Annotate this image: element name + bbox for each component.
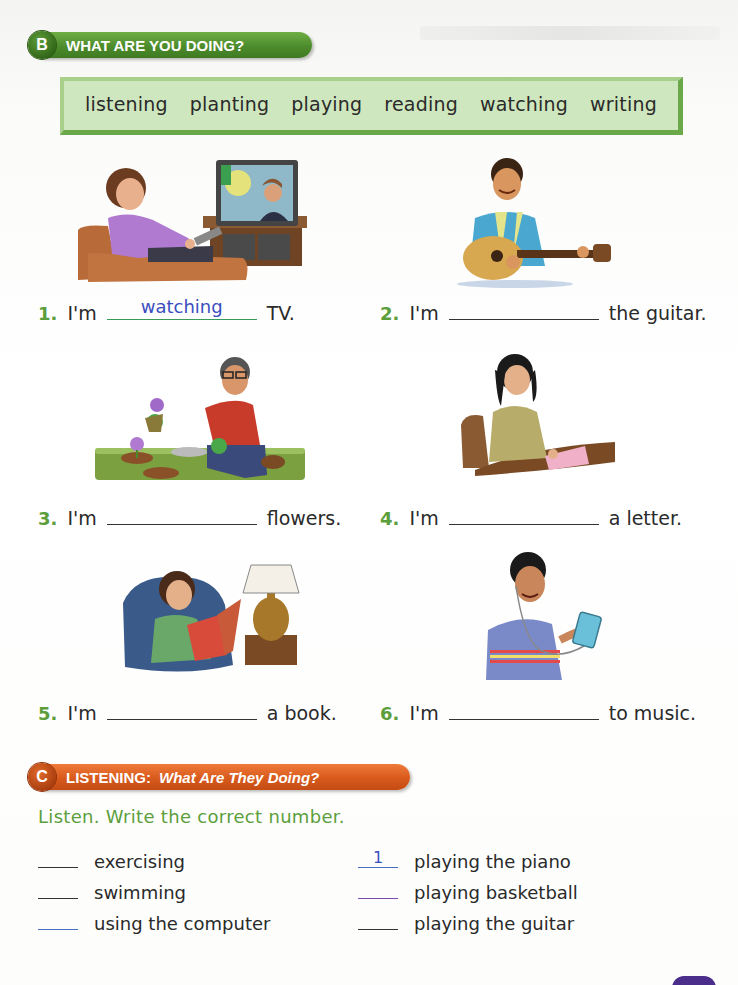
page-number-tab xyxy=(672,976,716,985)
exercise-suffix: flowers. xyxy=(267,507,342,529)
exercise-prefix: I'm xyxy=(409,507,438,529)
exercise-number: 5. xyxy=(38,703,57,724)
number-blank[interactable] xyxy=(358,912,398,930)
listening-item-label: playing the piano xyxy=(414,851,571,872)
listening-item: playing the guitar xyxy=(358,912,574,934)
girl-reading-book-illustration xyxy=(115,555,305,680)
woman-watching-tv-illustration xyxy=(78,158,310,288)
exercise-1: 1. I'm watching TV. xyxy=(38,300,295,324)
answer-blank[interactable] xyxy=(449,300,599,320)
man-planting-flowers-illustration xyxy=(95,350,305,485)
word-bank-item: writing xyxy=(590,93,657,115)
exercise-4: 4. I'm a letter. xyxy=(380,505,682,529)
woman-writing-letter-illustration xyxy=(455,350,620,478)
word-bank-item: watching xyxy=(480,93,568,115)
listening-item: exercising xyxy=(38,850,185,872)
answer-blank[interactable]: watching xyxy=(107,300,257,320)
number-answer: 1 xyxy=(358,848,398,867)
exercise-2: 2. I'm the guitar. xyxy=(380,300,707,324)
number-blank[interactable] xyxy=(358,881,398,899)
section-c-badge: C xyxy=(28,763,56,791)
boy-listening-music-illustration xyxy=(480,550,615,685)
word-bank-item: planting xyxy=(190,93,269,115)
section-c-subtitle: What Are They Doing? xyxy=(159,769,319,786)
listening-item-label: swimming xyxy=(94,882,186,903)
number-blank[interactable] xyxy=(38,850,78,868)
number-blank[interactable] xyxy=(38,881,78,899)
answer-blank[interactable] xyxy=(449,505,599,525)
exercise-suffix: the guitar. xyxy=(609,302,707,324)
exercise-number: 1. xyxy=(38,303,57,324)
answer-text: watching xyxy=(107,296,257,317)
exercise-number: 3. xyxy=(38,508,57,529)
exercise-number: 6. xyxy=(380,703,399,724)
word-bank-item: reading xyxy=(384,93,458,115)
answer-blank[interactable] xyxy=(107,700,257,720)
listening-item: playing basketball xyxy=(358,881,578,903)
listening-item-label: playing basketball xyxy=(414,882,578,903)
word-bank-item: listening xyxy=(85,93,168,115)
listening-item: using the computer xyxy=(38,912,270,934)
section-c-title: LISTENING: xyxy=(66,769,151,786)
exercise-number: 2. xyxy=(380,303,399,324)
number-blank[interactable] xyxy=(38,912,78,930)
answer-blank[interactable] xyxy=(449,700,599,720)
word-bank: listening planting playing reading watch… xyxy=(60,77,683,135)
exercise-suffix: a letter. xyxy=(609,507,682,529)
word-bank-item: playing xyxy=(291,93,362,115)
exercise-prefix: I'm xyxy=(67,702,96,724)
exercise-3: 3. I'm flowers. xyxy=(38,505,341,529)
exercise-6: 6. I'm to music. xyxy=(380,700,696,724)
exercise-suffix: to music. xyxy=(609,702,696,724)
exercise-prefix: I'm xyxy=(409,702,438,724)
exercise-prefix: I'm xyxy=(67,507,96,529)
listening-item-label: exercising xyxy=(94,851,185,872)
listening-item: 1 playing the piano xyxy=(358,850,571,872)
number-blank[interactable]: 1 xyxy=(358,850,398,868)
listening-item: swimming xyxy=(38,881,186,903)
answer-blank[interactable] xyxy=(107,505,257,525)
man-playing-guitar-illustration xyxy=(455,156,615,288)
section-c-banner: C LISTENING: What Are They Doing? xyxy=(32,764,410,790)
exercise-number: 4. xyxy=(380,508,399,529)
section-b-title: WHAT ARE YOU DOING? xyxy=(66,37,244,54)
section-b-banner: B WHAT ARE YOU DOING? xyxy=(32,32,312,58)
listening-item-label: using the computer xyxy=(94,913,270,934)
exercise-suffix: TV. xyxy=(267,302,295,324)
listening-item-label: playing the guitar xyxy=(414,913,574,934)
exercise-suffix: a book. xyxy=(267,702,337,724)
exercise-prefix: I'm xyxy=(409,302,438,324)
faint-bleedthrough-header xyxy=(420,26,720,40)
exercise-prefix: I'm xyxy=(67,302,96,324)
listening-instruction: Listen. Write the correct number. xyxy=(38,806,345,827)
section-b-badge: B xyxy=(28,31,56,59)
exercise-5: 5. I'm a book. xyxy=(38,700,337,724)
